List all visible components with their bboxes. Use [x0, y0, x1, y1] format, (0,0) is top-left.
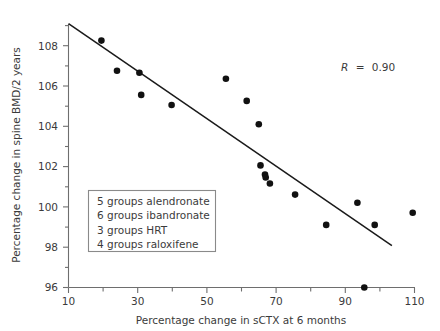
data-point [255, 121, 262, 128]
data-point [168, 102, 175, 109]
data-point [361, 284, 368, 291]
x-tick-label: 50 [200, 295, 213, 307]
data-point [409, 210, 416, 217]
x-axis-title: Percentage change in sCTX at 6 months [136, 314, 347, 326]
data-point [257, 162, 264, 169]
x-tick-label: 90 [339, 295, 352, 307]
data-point [371, 222, 378, 229]
data-point [323, 222, 330, 229]
y-tick-label: 102 [38, 160, 58, 172]
y-axis-title: Percentage change in spine BMD/2 years [10, 47, 22, 263]
correlation-annotation: R = 0.90 [341, 61, 395, 73]
legend-entry-label: 6 groups ibandronate [97, 209, 210, 221]
y-tick-label: 98 [45, 241, 58, 253]
y-axis-tick-labels: 96 98 100 102 104 106 108 [38, 40, 58, 294]
x-tick-label: 70 [269, 295, 282, 307]
correlation-value: 0.90 [372, 61, 395, 73]
y-tick-label: 96 [45, 281, 59, 293]
x-axis-tick-labels: 10 30 50 70 90 110 [62, 295, 425, 307]
y-tick-label: 104 [38, 120, 58, 132]
data-point [292, 191, 299, 198]
x-tick-label: 30 [131, 295, 144, 307]
x-tick-label: 110 [404, 295, 424, 307]
legend-box: 5 groups alendronate 6 groups ibandronat… [89, 191, 216, 252]
y-tick-label: 100 [38, 201, 58, 213]
y-axis-major-ticks [63, 46, 69, 288]
x-tick-label: 10 [62, 295, 75, 307]
y-tick-label: 108 [38, 40, 58, 52]
legend-entry-label: 4 groups raloxifene [97, 238, 199, 250]
data-point [138, 92, 145, 99]
x-axis-minor-ticks [103, 288, 380, 292]
data-point [98, 37, 105, 44]
legend-entry-label: 3 groups HRT [97, 224, 168, 236]
data-point [262, 174, 269, 181]
data-point [243, 98, 250, 105]
data-point [354, 199, 361, 206]
scatter-plot-figure: 96 98 100 102 104 106 108 10 [0, 0, 440, 331]
data-point [267, 180, 274, 187]
correlation-operator: = [356, 61, 365, 73]
correlation-symbol: R [341, 61, 348, 73]
data-point [114, 68, 121, 75]
legend-entry-label: 5 groups alendronate [97, 195, 210, 207]
data-points-group [98, 37, 416, 291]
data-point [223, 76, 230, 83]
y-tick-label: 106 [38, 80, 58, 92]
chart-canvas: 96 98 100 102 104 106 108 10 [0, 0, 440, 331]
data-point [136, 70, 143, 77]
